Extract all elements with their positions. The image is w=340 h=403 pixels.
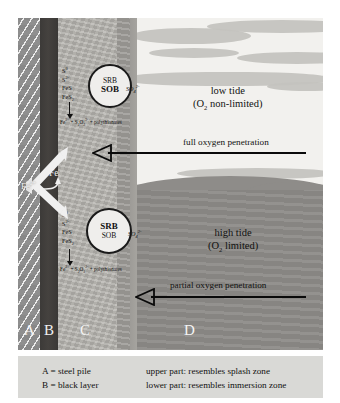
partial-penetration-arrow-shaft	[151, 296, 306, 298]
upper-downward-arrow	[69, 102, 70, 115]
legend-panel: A = steel pile B = black layer upper par…	[18, 356, 323, 398]
full-penetration-arrowhead	[92, 144, 112, 162]
water-texture	[137, 190, 323, 350]
cloud	[267, 82, 323, 91]
zone-d-environment	[137, 18, 323, 350]
high-tide-line1: high tide	[208, 226, 258, 239]
zone-letter-c: C	[80, 322, 90, 339]
legend-item-b: B = black layer	[42, 378, 98, 392]
upper-cell-sob-label: SOB	[101, 85, 119, 94]
diagram-canvas: S0 S2- FeS FeS2 SRB SOB SO42- Fe2+ + S2O…	[18, 18, 323, 350]
lower-products-label: Fe2+ + S2O32- + polythionates	[60, 265, 122, 274]
zone-letter-d: D	[184, 322, 195, 339]
cloud	[237, 52, 323, 64]
high-tide-label: high tide (O2 limited)	[208, 226, 258, 254]
legend-item-upper-part: upper part: resembles splash zone	[146, 364, 286, 378]
legend-left-column: A = steel pile B = black layer	[42, 364, 98, 393]
upper-sulfate-label: SO42-	[126, 84, 139, 94]
upper-reactant-fes2: FeS2	[62, 93, 74, 104]
figure-root: S0 S2- FeS FeS2 SRB SOB SO42- Fe2+ + S2O…	[0, 0, 340, 403]
full-penetration-label: full oxygen penetration	[183, 137, 269, 147]
legend-item-lower-part: lower part: resembles immersion zone	[146, 378, 286, 392]
lower-reactant-fes2: FeS2	[62, 237, 74, 248]
iron-ion-label: Fe2+	[21, 180, 36, 191]
sea-water	[137, 190, 323, 350]
iron-hook-arrow	[40, 176, 66, 194]
upper-products-label: Fe2+ + S2O32- + polythionates	[60, 118, 122, 127]
lower-cell-sob-label: SOB	[102, 232, 117, 240]
zone-letter-a: A	[24, 322, 35, 339]
high-tide-line2: (O2 limited)	[208, 239, 258, 254]
partial-penetration-label: partial oxygen penetration	[170, 280, 266, 290]
lower-downward-arrow	[69, 249, 70, 262]
low-tide-label: low tide (O2 non-limited)	[193, 84, 262, 112]
legend-item-a: A = steel pile	[42, 364, 98, 378]
lower-reactant-fes: FeS	[62, 228, 72, 237]
upper-reactant-fes: FeS	[62, 84, 72, 93]
low-tide-line1: low tide	[193, 84, 262, 97]
partial-penetration-arrowhead	[135, 288, 155, 306]
low-tide-line2: (O2 non-limited)	[193, 97, 262, 112]
zone-letter-b: B	[44, 322, 54, 339]
lower-sulfate-label: SO42-	[128, 229, 141, 239]
legend-right-column: upper part: resembles splash zone lower …	[146, 364, 286, 393]
cloud	[149, 48, 239, 58]
full-penetration-arrow-shaft	[108, 152, 306, 154]
